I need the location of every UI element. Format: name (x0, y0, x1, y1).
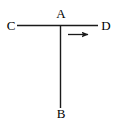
vertex-label-c: C (4, 19, 18, 32)
diagram-canvas: A B C D (0, 0, 120, 133)
vertex-label-a: A (54, 7, 68, 20)
vertex-label-d: D (99, 19, 113, 32)
vertex-label-b: B (54, 107, 68, 120)
